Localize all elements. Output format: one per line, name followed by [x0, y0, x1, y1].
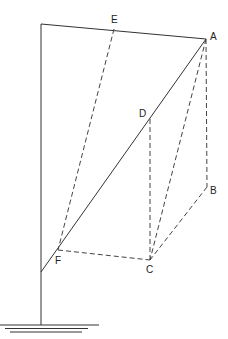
ground-hatch-icon — [0, 325, 99, 332]
top-beam-line — [41, 24, 206, 39]
point-label-d: D — [139, 108, 146, 119]
point-label-e: E — [111, 14, 118, 25]
point-label-f: F — [55, 255, 61, 266]
dashed-line-a-c — [150, 39, 206, 260]
point-label-a: A — [210, 31, 217, 42]
diagonal-line-a-pole — [41, 39, 206, 272]
geometry-diagram: E A D B F C — [0, 0, 228, 339]
point-label-b: B — [210, 185, 217, 196]
dashed-line-e-f — [58, 29, 114, 250]
dashed-line-b-c — [150, 187, 207, 260]
point-label-c: C — [146, 264, 153, 275]
dashed-line-f-c — [58, 250, 150, 260]
dashed-line-a-b — [206, 39, 207, 187]
